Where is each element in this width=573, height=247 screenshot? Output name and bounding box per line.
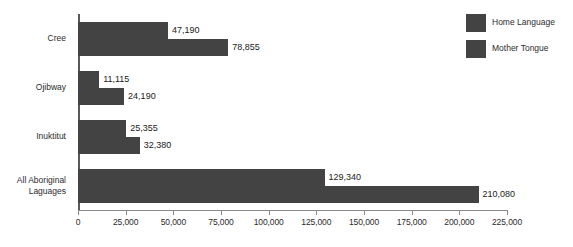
x-axis-tick-mark [316,210,317,215]
bar-chart: CreeOjibwayInuktitutAll Aboriginal Lagua… [0,0,573,247]
category-label: Cree [0,14,72,63]
legend-item[interactable]: Home Language [466,12,571,38]
bar-value-label: 25,355 [126,123,158,133]
bar-value-label: 129,340 [325,172,362,182]
x-axis-tick-mark [126,210,127,215]
chart-legend: Home LanguageMother Tongue [466,12,571,64]
category-label: Inuktitut [0,112,72,161]
bar-row[interactable]: 129,340 [78,169,507,186]
bar[interactable] [78,137,140,154]
x-axis-tick-label: 125,000 [301,217,331,227]
bar[interactable] [78,186,479,203]
bar-value-label: 78,855 [228,42,260,52]
x-axis-tick-mark [507,210,508,215]
x-axis-tick-label: 200,000 [444,217,474,227]
bar-row[interactable]: 47,190 [78,22,507,39]
bar-value-label: 11,115 [99,74,129,84]
bar[interactable] [78,22,168,39]
bar-row[interactable]: 11,115 [78,71,507,88]
x-axis-tick-mark [269,210,270,215]
x-axis-tick-mark [221,210,222,215]
bar[interactable] [78,39,228,56]
legend-swatch [466,14,486,32]
x-axis-tick-mark [173,210,174,215]
x-axis-tick-label: 0 [76,217,81,227]
bar-row[interactable]: 25,355 [78,120,507,137]
bar-value-label: 210,080 [479,189,516,199]
bar-row[interactable]: 24,190 [78,88,507,105]
x-axis-tick-label: 75,000 [208,217,233,227]
bar-row[interactable]: 78,855 [78,39,507,56]
bar[interactable] [78,88,124,105]
x-axis-tick-label: 50,000 [161,217,186,227]
x-axis-tick-mark [459,210,460,215]
legend-swatch [466,40,486,58]
x-axis-tick-mark [412,210,413,215]
legend-label: Home Language [492,17,555,27]
legend-label: Mother Tongue [492,43,549,53]
bar-value-label: 24,190 [124,91,156,101]
legend-item[interactable]: Mother Tongue [466,38,571,64]
x-axis-tick-mark [78,210,79,215]
bar-row[interactable]: 210,080 [78,186,507,203]
bar-value-label: 32,380 [140,140,172,150]
x-axis-tick-label: 100,000 [254,217,284,227]
x-axis-tick-mark [364,210,365,215]
x-axis-tick-label: 150,000 [349,217,379,227]
bar[interactable] [78,71,99,88]
bar-value-label: 47,190 [168,25,200,35]
category-label: All Aboriginal Laguages [0,161,72,210]
x-axis-line [78,210,507,211]
bar[interactable] [78,169,325,186]
bar-row[interactable]: 32,380 [78,137,507,154]
category-label: Ojibway [0,63,72,112]
x-axis-tick-label: 225,000 [492,217,522,227]
plot-area: 025,00050,00075,000100,000125,000150,000… [78,14,507,210]
x-axis-tick-label: 25,000 [113,217,138,227]
bar[interactable] [78,120,126,137]
x-axis-tick-label: 175,000 [397,217,427,227]
